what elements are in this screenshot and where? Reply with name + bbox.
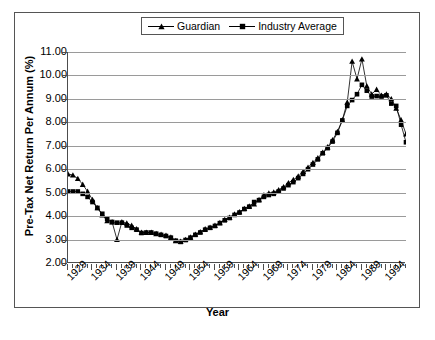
data-point-square-icon bbox=[355, 92, 360, 97]
y-axis-tick-mark bbox=[62, 146, 67, 147]
data-point-square-icon bbox=[124, 223, 129, 228]
y-axis-tick-mark bbox=[62, 75, 67, 76]
data-point-square-icon bbox=[95, 206, 100, 211]
data-point-triangle-icon bbox=[75, 176, 81, 181]
gridline bbox=[68, 122, 406, 123]
data-point-square-icon bbox=[154, 231, 159, 236]
gridline bbox=[68, 146, 406, 147]
chart-legend: Guardian Industry Average bbox=[141, 17, 344, 35]
data-point-square-icon bbox=[311, 162, 316, 167]
data-point-square-icon bbox=[149, 230, 154, 235]
data-point-square-icon bbox=[164, 234, 169, 239]
gridline bbox=[68, 75, 406, 76]
data-point-square-icon bbox=[281, 186, 286, 191]
y-axis-tick-mark bbox=[62, 169, 67, 170]
y-axis-tick-mark bbox=[62, 99, 67, 100]
data-point-square-icon bbox=[139, 231, 144, 236]
data-point-square-icon bbox=[90, 200, 95, 205]
data-point-square-icon bbox=[320, 151, 325, 156]
data-point-square-icon bbox=[335, 131, 340, 136]
data-point-square-icon bbox=[198, 230, 203, 235]
data-point-square-icon bbox=[252, 200, 257, 205]
data-point-square-icon bbox=[144, 230, 149, 235]
data-point-square-icon bbox=[394, 104, 399, 109]
data-point-square-icon bbox=[374, 94, 379, 99]
gridline bbox=[68, 52, 406, 53]
data-point-triangle-icon bbox=[359, 56, 365, 61]
legend-line-square-icon bbox=[229, 22, 255, 31]
data-point-square-icon bbox=[159, 233, 164, 238]
gridline bbox=[68, 99, 406, 100]
data-point-square-icon bbox=[296, 176, 301, 181]
data-point-square-icon bbox=[399, 122, 404, 127]
data-point-square-icon bbox=[404, 140, 406, 145]
data-point-square-icon bbox=[301, 172, 306, 177]
legend-entry-guardian: Guardian bbox=[148, 20, 220, 32]
y-axis-tick-mark bbox=[62, 52, 67, 53]
data-point-square-icon bbox=[203, 227, 208, 232]
data-point-square-icon bbox=[218, 221, 223, 226]
data-point-triangle-icon bbox=[68, 171, 71, 176]
series-line bbox=[68, 85, 406, 242]
y-axis-tick-labels: 11.0010.009.008.007.006.005.004.003.002.… bbox=[14, 0, 67, 340]
y-axis-tick-mark bbox=[62, 263, 67, 264]
data-point-square-icon bbox=[222, 218, 227, 223]
y-axis-tick-mark bbox=[62, 240, 67, 241]
series-industry-average bbox=[68, 83, 406, 245]
data-point-square-icon bbox=[129, 226, 134, 231]
data-point-square-icon bbox=[247, 204, 252, 209]
data-point-square-icon bbox=[110, 220, 115, 225]
y-axis-tick-mark bbox=[62, 216, 67, 217]
data-point-square-icon bbox=[345, 104, 350, 109]
gridline bbox=[68, 216, 406, 217]
y-axis-tick-mark bbox=[62, 122, 67, 123]
data-point-square-icon bbox=[360, 83, 365, 88]
data-point-square-icon bbox=[384, 93, 389, 98]
data-point-square-icon bbox=[193, 233, 198, 238]
data-point-square-icon bbox=[208, 226, 213, 231]
data-point-triangle-icon bbox=[349, 58, 355, 63]
data-point-square-icon bbox=[242, 207, 247, 212]
data-point-square-icon bbox=[213, 224, 218, 229]
gridline bbox=[68, 169, 406, 170]
data-point-square-icon bbox=[237, 210, 242, 215]
y-axis-title: Pre-Tax Net Return Per Annum (%) bbox=[23, 31, 35, 261]
data-point-square-icon bbox=[330, 139, 335, 144]
data-point-triangle-icon bbox=[374, 87, 380, 92]
data-point-triangle-icon bbox=[354, 76, 360, 81]
data-point-square-icon bbox=[365, 88, 370, 93]
data-point-square-icon bbox=[120, 220, 125, 225]
data-point-square-icon bbox=[389, 101, 394, 106]
series-layer bbox=[68, 52, 406, 263]
gridline bbox=[68, 193, 406, 194]
data-point-square-icon bbox=[257, 198, 262, 203]
legend-label-industry-average: Industry Average bbox=[258, 20, 337, 32]
legend-line-triangle-icon bbox=[148, 22, 174, 31]
data-point-square-icon bbox=[105, 217, 110, 222]
plot-area bbox=[67, 52, 405, 263]
data-point-square-icon bbox=[286, 183, 291, 188]
y-axis-tick-mark bbox=[62, 193, 67, 194]
data-point-square-icon bbox=[115, 220, 120, 225]
data-point-square-icon bbox=[134, 227, 139, 232]
data-point-square-icon bbox=[291, 180, 296, 185]
data-point-square-icon bbox=[316, 157, 321, 162]
legend-entry-industry-average: Industry Average bbox=[229, 20, 337, 32]
legend-label-guardian: Guardian bbox=[177, 20, 220, 32]
chart-figure: Guardian Industry Average 11.0010.009.00… bbox=[0, 0, 435, 340]
x-axis-title: Year bbox=[0, 306, 435, 318]
data-point-square-icon bbox=[262, 195, 267, 200]
data-point-square-icon bbox=[85, 195, 90, 200]
gridline bbox=[68, 240, 406, 241]
plot-region: 11.0010.009.008.007.006.005.004.003.002.… bbox=[0, 0, 435, 340]
